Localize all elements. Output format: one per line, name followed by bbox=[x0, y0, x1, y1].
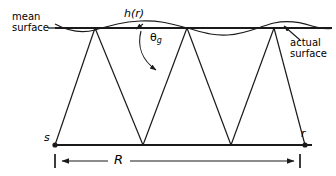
figure-canvas: mean surface actual surface h(r) θg s r … bbox=[0, 0, 336, 176]
ray-segment-down-1 bbox=[95, 28, 143, 145]
ray-path bbox=[55, 28, 305, 145]
ray-segment-up-3 bbox=[231, 28, 274, 145]
grazing-angle-symbol: θ bbox=[150, 31, 157, 44]
grazing-angle-subscript: g bbox=[157, 36, 162, 45]
ray-segment-up-1 bbox=[55, 28, 95, 145]
receiver-label: r bbox=[301, 128, 306, 140]
grazing-angle-label: θg bbox=[150, 32, 162, 46]
actual-surface-label: actual surface bbox=[290, 37, 327, 59]
height-function-label: h(r) bbox=[124, 8, 144, 20]
source-label: s bbox=[44, 132, 50, 144]
receiver-point-marker bbox=[302, 142, 307, 147]
source-point-marker bbox=[52, 142, 57, 147]
range-label: R bbox=[114, 153, 123, 168]
mean-surface-label: mean surface bbox=[12, 11, 49, 33]
diagram-svg bbox=[0, 0, 336, 176]
range-dimension bbox=[55, 154, 300, 168]
ray-segment-down-2 bbox=[187, 28, 231, 145]
